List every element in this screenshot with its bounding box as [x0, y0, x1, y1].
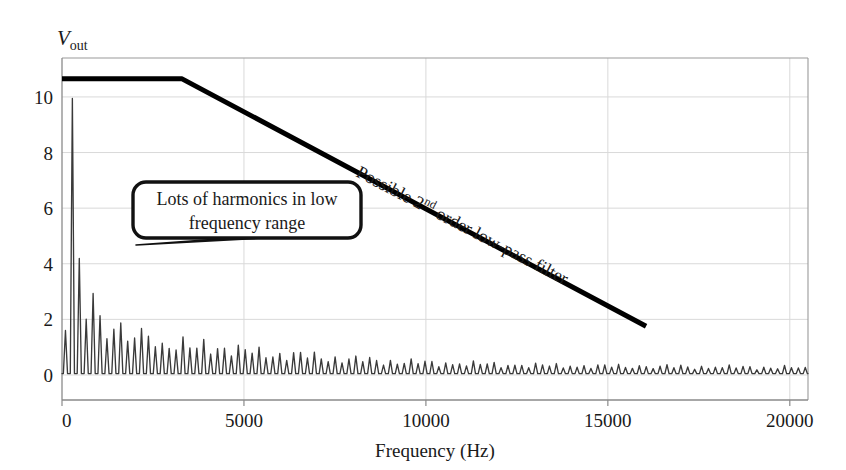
- x-axis-ticks: 05000100001500020000: [62, 400, 814, 431]
- callout-line-2: frequency range: [189, 213, 305, 233]
- x-tick-label: 0: [62, 410, 72, 431]
- y-axis-ticks: 0246810: [34, 87, 54, 386]
- y-axis-title: Vout: [57, 26, 88, 53]
- x-tick-label: 5000: [225, 410, 263, 431]
- y-tick-label: 4: [44, 254, 54, 275]
- svg-text:Vout: Vout: [57, 26, 88, 53]
- y-tick-label: 0: [44, 365, 54, 386]
- callout-line-1: Lots of harmonics in low: [157, 189, 338, 209]
- y-axis-title-subscript: out: [70, 38, 88, 53]
- y-tick-label: 2: [44, 309, 54, 330]
- y-tick-label: 10: [34, 87, 53, 108]
- x-tick-label: 15000: [584, 410, 632, 431]
- figure-container: 05000100001500020000 0246810 Possible 2n…: [0, 0, 846, 470]
- x-tick-label: 20000: [766, 410, 814, 431]
- y-tick-label: 6: [44, 198, 54, 219]
- spectrum-chart: 05000100001500020000 0246810 Possible 2n…: [0, 0, 846, 470]
- x-tick-label: 10000: [402, 410, 450, 431]
- y-tick-label: 8: [44, 143, 54, 164]
- x-axis-title: Frequency (Hz): [375, 440, 495, 462]
